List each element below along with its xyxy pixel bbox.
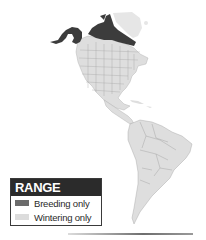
legend-label: Breeding only (34, 198, 90, 209)
legend-item-wintering: Wintering only (11, 210, 101, 224)
caribbean (130, 100, 144, 104)
divider-line (68, 233, 193, 235)
legend-label: Wintering only (34, 212, 91, 223)
legend-item-breeding: Breeding only (11, 196, 101, 210)
south-america (128, 120, 192, 224)
legend-title: RANGE (11, 179, 101, 196)
map-legend: RANGE Breeding only Wintering only (10, 178, 102, 226)
breeding-swatch (15, 200, 29, 206)
breeding-alaska (50, 27, 82, 44)
caribbean (146, 106, 152, 108)
wintering-swatch (15, 214, 29, 220)
iceland (144, 21, 148, 25)
